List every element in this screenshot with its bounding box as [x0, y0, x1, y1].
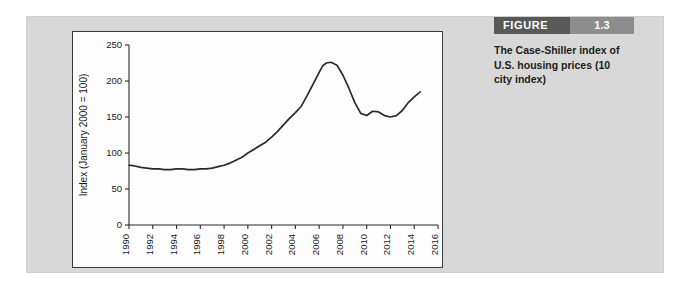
- figure-caption-block: FIGURE 1.3 The Case-Shiller index of U.S…: [494, 17, 634, 87]
- chart-series-line: [129, 62, 420, 169]
- y-tick-label: 0: [117, 219, 122, 230]
- x-tick-label: 2004: [286, 234, 297, 255]
- x-tick-label: 2008: [334, 234, 345, 255]
- x-tick-label: 1994: [168, 234, 179, 255]
- figure-badge-word: FIGURE: [494, 17, 570, 34]
- y-tick-label: 250: [106, 39, 122, 50]
- figure-caption-text: The Case-Shiller index of U.S. housing p…: [494, 43, 624, 87]
- x-tick-label: 2016: [429, 234, 440, 255]
- page-bottom-band: [0, 274, 691, 291]
- x-tick-label: 1990: [120, 234, 131, 255]
- x-tick-label: 2012: [381, 234, 392, 255]
- chart-plot-panel: 0501001502002501990199219941996199820002…: [72, 31, 443, 268]
- y-tick-label: 100: [106, 147, 122, 158]
- x-tick-label: 1998: [215, 234, 226, 255]
- x-tick-label: 2014: [405, 234, 416, 255]
- x-tick-label: 1992: [144, 234, 155, 255]
- figure-badge-number: 1.3: [570, 17, 634, 34]
- y-tick-label: 50: [111, 183, 122, 194]
- x-tick-label: 2006: [310, 234, 321, 255]
- figure-badge: FIGURE 1.3: [494, 17, 634, 34]
- y-tick-label: 150: [106, 111, 122, 122]
- y-tick-label: 200: [106, 75, 122, 86]
- x-tick-label: 2010: [358, 234, 369, 255]
- x-tick-label: 1996: [191, 234, 202, 255]
- x-tick-label: 2002: [263, 234, 274, 255]
- x-tick-label: 2000: [239, 234, 250, 255]
- y-axis-label: Index (January 2000 = 100): [78, 74, 89, 197]
- line-chart: 0501001502002501990199219941996199820002…: [73, 32, 444, 269]
